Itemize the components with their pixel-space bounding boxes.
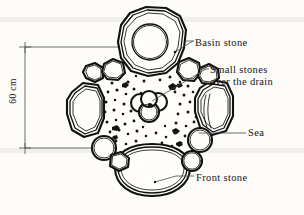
right-stone — [195, 80, 233, 135]
label-basin-stone: Basin stone — [195, 37, 248, 49]
round-stone-ul — [83, 63, 103, 82]
round-stone-br — [182, 151, 202, 171]
round-stone-tr — [177, 58, 201, 81]
label-small-stones-line2: over the drain — [210, 76, 273, 88]
basin-stone — [118, 7, 186, 76]
label-small-stones: Small stones over the drain — [210, 64, 273, 87]
round-stone-bl — [110, 152, 129, 171]
figure-canvas: .ink { fill:none; stroke:#111; stroke-li… — [0, 0, 304, 215]
round-stone-rl — [188, 128, 212, 152]
label-sea: Sea — [248, 127, 264, 139]
stone-arrangement-drawing: .ink { fill:none; stroke:#111; stroke-li… — [0, 0, 304, 215]
dimension-label: 60 cm — [8, 69, 18, 113]
label-front-stone: Front stone — [196, 172, 247, 184]
front-stone — [115, 144, 190, 196]
label-small-stones-line1: Small stones — [210, 64, 268, 75]
round-stone-tl — [102, 59, 125, 80]
left-stone — [67, 83, 104, 137]
